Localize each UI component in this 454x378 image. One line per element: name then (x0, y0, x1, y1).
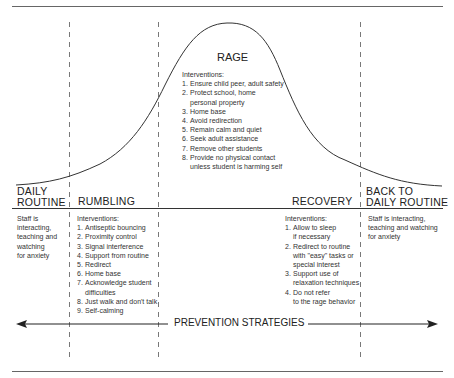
intervention-item: 3.Home base (182, 107, 284, 116)
rage-interventions: Interventions: 1.Ensure child peer, adul… (182, 70, 284, 171)
phase-title-rage: RAGE (217, 51, 248, 63)
rumbling-interventions: Interventions: 1.Antiseptic bouncing 2.P… (77, 214, 157, 315)
daily-routine-description: Staff is interacting, teaching and watch… (17, 214, 57, 260)
intervention-item: 4.Support from routine (77, 251, 157, 260)
intervention-item: 1.Ensure child peer, adult safety (182, 79, 284, 88)
prevention-strategies-label: PREVENTION STRATEGIES (170, 317, 308, 328)
back-to-daily-routine-description: Staff is interacting, teaching and watch… (368, 214, 438, 242)
interventions-header: Interventions: (182, 70, 284, 79)
intervention-item: 3.Support use ofrelaxation techniques (285, 269, 359, 287)
intervention-item: 2.Protect school, homepersonal property (182, 88, 284, 106)
intervention-item: 8.Provide no physical contactunless stud… (182, 153, 284, 171)
phase-title-recovery: RECOVERY (292, 196, 352, 207)
phase-title-rumbling: RUMBLING (78, 196, 135, 207)
intervention-item: 1.Antiseptic bouncing (77, 223, 157, 232)
phase-title-daily-routine: DAILY ROUTINE (17, 186, 66, 208)
intervention-item: 7.Remove other students (182, 144, 284, 153)
intervention-item: 1.Allow to sleepif necessary (285, 223, 359, 241)
intervention-item: 8.Just walk and don't talk (77, 297, 157, 306)
phase-title-back-to-daily-routine: BACK TO DAILY ROUTINE (366, 186, 448, 208)
interventions-header: Interventions: (77, 214, 157, 223)
intervention-item: 4.Avoid redirection (182, 116, 284, 125)
intervention-item: 2.Redirect to routinewith "easy" tasks o… (285, 242, 359, 270)
intervention-item: 3.Signal interference (77, 242, 157, 251)
intervention-item: 5.Redirect (77, 260, 157, 269)
intervention-item: 4.Do not referto the rage behavior (285, 288, 359, 306)
intervention-item: 2.Proximity control (77, 232, 157, 241)
intervention-item: 5.Remain calm and quiet (182, 125, 284, 134)
intervention-item: 9.Self-calming (77, 306, 157, 315)
recovery-interventions: Interventions: 1.Allow to sleepif necess… (285, 214, 359, 306)
interventions-header: Interventions: (285, 214, 359, 223)
intervention-item: 7.Acknowledge studentdifficulties (77, 278, 157, 296)
intervention-item: 6.Seek adult assistance (182, 134, 284, 143)
intervention-item: 6.Home base (77, 269, 157, 278)
